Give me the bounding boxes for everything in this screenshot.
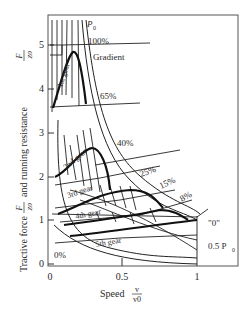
y-label-frac2-den: Z0 [26,51,34,59]
y-tick-3: 3 [39,127,44,138]
y-label-prefix: Tractive force [18,215,29,272]
chart-annotations: P 0 100% Gradient 65% 40% 25% 15% 8% "0"… [54,19,235,260]
gear-3-label: 3rd gear [66,183,94,200]
gradient-40-label: 40% [117,138,134,148]
x-tick-0: 0 [48,271,53,282]
gear-1-label: 1st gear [55,62,71,89]
x-tick-0-5: 0.5 [116,271,129,282]
p0-sub: 0 [93,25,96,31]
y-label-frac2-num: F [15,53,24,59]
gradient-25-label: 25% [138,164,157,179]
y-tick-5: 5 [39,39,44,50]
gradient-title: Gradient [93,52,125,62]
y-axis-tick-labels: 0 1 2 3 4 5 [39,39,44,269]
half-p0-label: 0.5 P [208,241,227,251]
x-axis-tick-labels: 0 0.5 1 [48,271,200,282]
y-label-frac1-num: F [15,205,24,211]
y-tick-4: 4 [39,83,44,94]
y-label-middle: and running resistance [18,106,29,197]
gear-5-label: 5th gear [95,236,122,249]
gradient-15-label: 15% [158,175,178,191]
x-label-text: Speed [100,288,124,299]
y-tick-0: 0 [39,258,44,269]
x-axis-label: Speed v v0 [100,285,142,304]
x-tick-1: 1 [195,271,200,282]
tractive-force-chart: 0 1 2 3 4 5 0 0.5 1 Speed v v0 Tractive … [0,0,251,318]
gradient-40-line [95,150,180,165]
gradient-0-label: 0% [54,250,67,260]
y-label-frac1-den: Z0 [26,203,34,211]
x-label-denominator: v0 [133,295,141,304]
x-label-numerator: v [135,285,139,294]
y-axis-ticks [48,45,54,264]
gradient-65-label: 65% [100,91,117,101]
gradient-100-label: 100% [88,36,110,46]
zero-percent-curve [54,225,197,264]
y-axis-label: Tractive force F Z0 and running resistan… [15,50,34,272]
p0-label: P [86,19,93,29]
y-tick-1: 1 [39,214,44,225]
zero-quote-label: "0" [208,218,220,228]
half-p0-sub: 0 [232,247,235,253]
y-tick-2: 2 [39,171,44,182]
gradient-8-label: 8% [178,189,194,204]
